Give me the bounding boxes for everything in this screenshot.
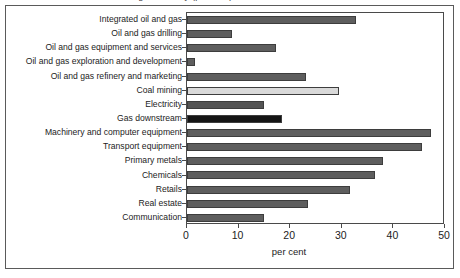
chart-figure: and gas industry (per cent) Integrated o… <box>0 0 460 278</box>
category-label: Gas downstream <box>8 113 182 123</box>
bar <box>187 157 383 165</box>
bar <box>187 186 350 194</box>
y-axis-tick <box>182 146 186 147</box>
x-axis-tick-label: 20 <box>283 229 295 241</box>
x-axis-tick <box>392 224 393 228</box>
bar-row <box>187 41 443 55</box>
bar <box>187 44 276 52</box>
y-axis-tick <box>182 47 186 48</box>
category-label: Communication <box>8 212 182 222</box>
bar <box>187 115 282 123</box>
y-axis-tick <box>182 203 186 204</box>
bar-row <box>187 197 443 211</box>
bar-row <box>187 183 443 197</box>
category-label: Coal mining <box>8 85 182 95</box>
category-label: Machinery and computer equipment <box>8 127 182 137</box>
x-axis-tick <box>186 224 187 228</box>
cropped-title-text: and gas industry (per cent) <box>120 0 232 1</box>
bar <box>187 129 431 137</box>
category-label: Real estate <box>8 198 182 208</box>
bar <box>187 73 306 81</box>
x-axis-tick <box>444 224 445 228</box>
bar-row <box>187 70 443 84</box>
y-axis-tick <box>182 160 186 161</box>
bar <box>187 101 264 109</box>
category-label: Oil and gas refinery and marketing <box>8 71 182 81</box>
category-label: Transport equipment <box>8 141 182 151</box>
category-axis-labels: Integrated oil and gasOil and gas drilli… <box>8 12 182 224</box>
bar <box>187 200 308 208</box>
category-label: Oil and gas drilling <box>8 28 182 38</box>
bar-row <box>187 168 443 182</box>
bar <box>187 214 264 222</box>
category-label: Primary metals <box>8 155 182 165</box>
y-axis-tick <box>182 132 186 133</box>
y-axis-tick <box>182 175 186 176</box>
y-axis-tick <box>182 90 186 91</box>
x-axis-tick <box>289 224 290 228</box>
bar <box>187 87 339 95</box>
x-axis-tick-label: 30 <box>335 229 347 241</box>
y-axis-tick <box>182 76 186 77</box>
category-label: Integrated oil and gas <box>8 14 182 24</box>
bar-row <box>187 98 443 112</box>
category-label: Oil and gas exploration and development <box>8 56 182 66</box>
bar-row <box>187 154 443 168</box>
bar <box>187 16 356 24</box>
x-axis-tick-label: 10 <box>232 229 244 241</box>
x-axis-tick-label: 50 <box>438 229 450 241</box>
bar-row <box>187 126 443 140</box>
y-axis-tick <box>182 217 186 218</box>
bar <box>187 58 195 66</box>
y-axis-tick <box>182 61 186 62</box>
x-axis-tick-label: 40 <box>387 229 399 241</box>
bar <box>187 171 375 179</box>
bar-row <box>187 84 443 98</box>
bar <box>187 143 422 151</box>
bar-row <box>187 27 443 41</box>
cropped-title-strip: and gas industry (per cent) <box>0 0 460 4</box>
x-axis-tick <box>341 224 342 228</box>
bar-row <box>187 211 443 225</box>
x-axis-tick-label: 0 <box>183 229 189 241</box>
bar-row <box>187 55 443 69</box>
x-axis-title: per cent <box>272 246 306 257</box>
category-label: Retails <box>8 184 182 194</box>
category-label: Electricity <box>8 99 182 109</box>
category-label: Chemicals <box>8 170 182 180</box>
bar-row <box>187 140 443 154</box>
x-axis-tick <box>238 224 239 228</box>
y-axis-tick <box>182 189 186 190</box>
bar-row <box>187 13 443 27</box>
y-axis-tick <box>182 104 186 105</box>
bar <box>187 30 232 38</box>
y-axis-tick <box>182 118 186 119</box>
y-axis-tick <box>182 19 186 20</box>
category-label: Oil and gas equipment and services <box>8 42 182 52</box>
plot-area <box>186 12 444 224</box>
bar-row <box>187 112 443 126</box>
y-axis-tick <box>182 33 186 34</box>
